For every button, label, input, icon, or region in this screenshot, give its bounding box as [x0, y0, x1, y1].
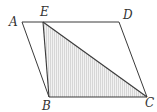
label-c: C — [145, 96, 154, 110]
label-b: B — [41, 99, 51, 112]
label-a: A — [8, 15, 18, 29]
label-d: D — [122, 8, 133, 22]
geometry-diagram: A E D B C — [0, 0, 157, 112]
label-e: E — [39, 5, 49, 19]
